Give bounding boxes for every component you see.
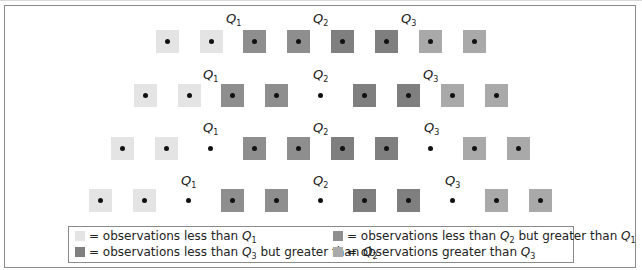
dot-icon	[340, 39, 345, 44]
quartile-label-q1: Q1	[226, 12, 241, 28]
observation-square	[529, 189, 552, 212]
dot-icon	[274, 198, 279, 203]
dot-icon	[186, 198, 191, 203]
dot-icon	[428, 146, 433, 151]
dot-icon	[318, 93, 323, 98]
quartile-label-q3: Q3	[424, 121, 439, 137]
dot-icon	[340, 146, 345, 151]
observation-square	[375, 137, 398, 160]
dot-icon	[296, 39, 301, 44]
legend-item-less-than-q1: = observations less than Q1	[75, 228, 257, 244]
dot-icon	[209, 39, 214, 44]
quartile-observation	[309, 84, 332, 107]
dot-icon	[252, 39, 257, 44]
dot-icon	[208, 146, 213, 151]
dot-icon	[384, 146, 389, 151]
legend-text: = observations less than	[347, 229, 500, 243]
observation-square	[485, 84, 508, 107]
observation-square	[419, 30, 442, 53]
dot-icon	[252, 146, 257, 151]
dot-icon	[406, 93, 411, 98]
observation-square	[178, 84, 201, 107]
legend-text: = observations less than	[89, 245, 242, 259]
top-rule	[0, 0, 642, 1]
observation-square	[89, 189, 112, 212]
dot-icon	[428, 39, 433, 44]
quartile-label-q3: Q3	[423, 68, 438, 84]
observation-square	[441, 84, 464, 107]
observation-square	[133, 189, 156, 212]
dot-icon	[406, 198, 411, 203]
legend-text: = observations greater than	[347, 245, 521, 259]
observation-square	[397, 189, 420, 212]
dot-icon	[165, 39, 170, 44]
observation-square	[397, 84, 420, 107]
quartile-label-q2: Q2	[313, 121, 328, 137]
quartile-label-q1: Q1	[203, 68, 218, 84]
observation-square	[243, 30, 266, 53]
quartile-observation	[177, 189, 200, 212]
legend-item-greater-than-q3: = observations greater than Q3	[333, 244, 535, 260]
observation-square	[463, 30, 486, 53]
dot-icon	[362, 93, 367, 98]
observation-square	[485, 189, 508, 212]
legend-text: = observations less than	[89, 229, 242, 243]
q-symbol: Q	[621, 229, 630, 243]
dot-icon	[120, 146, 125, 151]
dot-icon	[494, 198, 499, 203]
dot-icon	[142, 198, 147, 203]
legend-text: but greater than	[515, 229, 622, 243]
observation-square	[507, 137, 530, 160]
observation-square	[287, 30, 310, 53]
quartile-label-q2: Q2	[313, 12, 328, 28]
dot-icon	[384, 39, 389, 44]
legend-item-between-q1-q2: = observations less than Q2 but greater …	[333, 228, 636, 244]
observation-square	[221, 189, 244, 212]
dot-icon	[494, 93, 499, 98]
dot-icon	[450, 198, 455, 203]
observation-square	[111, 137, 134, 160]
observation-square	[243, 137, 266, 160]
dot-icon	[450, 93, 455, 98]
quartile-observation	[419, 137, 442, 160]
observation-square	[287, 137, 310, 160]
dot-icon	[98, 198, 103, 203]
observation-square	[265, 189, 288, 212]
dot-icon	[538, 198, 543, 203]
observation-square	[331, 30, 354, 53]
quartile-label-q2: Q2	[313, 68, 328, 84]
quartile-label-q3: Q3	[401, 12, 416, 28]
quartile-observation	[441, 189, 464, 212]
swatch-lt-q1	[75, 231, 85, 241]
dot-icon	[362, 198, 367, 203]
quartile-observation	[199, 137, 222, 160]
observation-square	[156, 30, 179, 53]
observation-square	[200, 30, 223, 53]
swatch-q2-q3	[75, 247, 85, 257]
observation-square	[134, 84, 157, 107]
dot-icon	[296, 146, 301, 151]
observation-square	[375, 30, 398, 53]
dot-icon	[274, 93, 279, 98]
dot-icon	[164, 146, 169, 151]
quartile-label-q1: Q1	[203, 121, 218, 137]
dot-icon	[516, 146, 521, 151]
quartile-observation	[309, 189, 332, 212]
dot-icon	[472, 146, 477, 151]
dot-icon	[143, 93, 148, 98]
q-subscript: 1	[631, 236, 636, 245]
dot-icon	[230, 198, 235, 203]
observation-square	[155, 137, 178, 160]
observation-square	[221, 84, 244, 107]
q-symbol: Q	[521, 245, 530, 259]
dot-icon	[472, 39, 477, 44]
quartile-label-q2: Q2	[313, 174, 328, 190]
observation-square	[463, 137, 486, 160]
dot-icon	[230, 93, 235, 98]
quartile-label-q1: Q1	[181, 174, 196, 190]
legend: = observations less than Q1 = observatio…	[68, 226, 574, 263]
swatch-gt-q3	[333, 247, 343, 257]
observation-square	[331, 137, 354, 160]
observation-square	[265, 84, 288, 107]
observation-square	[353, 84, 376, 107]
